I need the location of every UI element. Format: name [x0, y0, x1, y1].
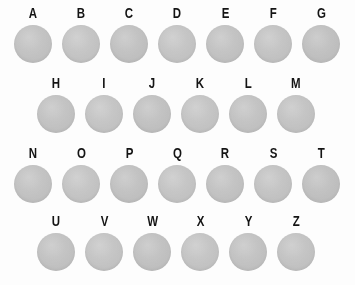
spot-cell[interactable]: I	[85, 76, 123, 133]
spot-row: N O P Q R S T	[0, 146, 355, 210]
spot-label: G	[317, 6, 326, 22]
spot-disc[interactable]	[85, 95, 123, 133]
spot-disc[interactable]	[302, 165, 340, 203]
spot-cell[interactable]: X	[181, 214, 219, 271]
spot-label: R	[221, 146, 229, 162]
spot-cell[interactable]: N	[14, 146, 52, 203]
spot-label: U	[52, 214, 60, 230]
spot-cell[interactable]: A	[14, 6, 52, 63]
spot-disc[interactable]	[37, 233, 75, 271]
spot-disc[interactable]	[14, 165, 52, 203]
spot-label: B	[77, 6, 85, 22]
spot-cell[interactable]: T	[302, 146, 340, 203]
spot-track: N O P Q R S T	[0, 146, 355, 203]
spot-row: H I J K L M	[0, 76, 355, 140]
spot-cell[interactable]: Z	[277, 214, 315, 271]
spot-cell[interactable]: C	[110, 6, 148, 63]
spot-cell[interactable]: G	[302, 6, 340, 63]
spot-label: E	[221, 6, 228, 22]
spot-label: A	[29, 6, 37, 22]
spot-label: C	[125, 6, 133, 22]
spot-disc[interactable]	[62, 165, 100, 203]
spot-row: A B C D E F G	[0, 6, 355, 70]
spot-cell[interactable]: Y	[229, 214, 267, 271]
spot-disc[interactable]	[158, 165, 196, 203]
spot-label: L	[245, 76, 252, 92]
spot-cell[interactable]: R	[206, 146, 244, 203]
spot-disc[interactable]	[181, 95, 219, 133]
spot-label: K	[196, 76, 204, 92]
spot-cell[interactable]: J	[133, 76, 171, 133]
spot-label: N	[29, 146, 37, 162]
spot-disc[interactable]	[254, 25, 292, 63]
spot-cell[interactable]: S	[254, 146, 292, 203]
spot-cell[interactable]: K	[181, 76, 219, 133]
spot-disc[interactable]	[14, 25, 52, 63]
spot-cell[interactable]: F	[254, 6, 292, 63]
spot-cell[interactable]: U	[37, 214, 75, 271]
spot-track: A B C D E F G	[0, 6, 355, 63]
spot-disc[interactable]	[37, 95, 75, 133]
spot-cell[interactable]: V	[85, 214, 123, 271]
spot-track: U V W X Y Z	[0, 214, 355, 271]
spot-label: F	[270, 6, 277, 22]
spot-cell[interactable]: B	[62, 6, 100, 63]
spot-label: W	[147, 214, 157, 230]
spot-row: U V W X Y Z	[0, 214, 355, 278]
spot-cell[interactable]: E	[206, 6, 244, 63]
spot-cell[interactable]: Q	[158, 146, 196, 203]
spot-disc[interactable]	[302, 25, 340, 63]
spot-label: Z	[293, 214, 300, 230]
spot-label: M	[291, 76, 300, 92]
spot-label: D	[173, 6, 181, 22]
spot-label: P	[125, 146, 132, 162]
spot-disc[interactable]	[277, 95, 315, 133]
spot-disc[interactable]	[229, 95, 267, 133]
spot-cell[interactable]: D	[158, 6, 196, 63]
spot-cell[interactable]: H	[37, 76, 75, 133]
spot-label: X	[196, 214, 203, 230]
spot-cell[interactable]: O	[62, 146, 100, 203]
spot-cell[interactable]: P	[110, 146, 148, 203]
spot-disc[interactable]	[62, 25, 100, 63]
spot-label: I	[103, 76, 106, 92]
spot-disc[interactable]	[110, 165, 148, 203]
spot-disc[interactable]	[133, 95, 171, 133]
spot-disc[interactable]	[110, 25, 148, 63]
spot-disc[interactable]	[181, 233, 219, 271]
spot-disc[interactable]	[229, 233, 267, 271]
spot-disc[interactable]	[277, 233, 315, 271]
spot-label: Q	[173, 146, 182, 162]
spot-cell[interactable]: L	[229, 76, 267, 133]
spot-disc[interactable]	[206, 165, 244, 203]
spot-disc[interactable]	[158, 25, 196, 63]
spot-label: S	[269, 146, 276, 162]
spot-label: O	[77, 146, 86, 162]
spot-plate: A B C D E F G	[0, 0, 355, 285]
spot-label: T	[318, 146, 325, 162]
spot-label: H	[52, 76, 60, 92]
spot-cell[interactable]: W	[133, 214, 171, 271]
spot-disc[interactable]	[254, 165, 292, 203]
spot-label: Y	[244, 214, 251, 230]
spot-cell[interactable]: M	[277, 76, 315, 133]
spot-track: H I J K L M	[0, 76, 355, 133]
spot-label: J	[149, 76, 155, 92]
spot-disc[interactable]	[133, 233, 171, 271]
spot-disc[interactable]	[85, 233, 123, 271]
spot-label: V	[100, 214, 107, 230]
spot-disc[interactable]	[206, 25, 244, 63]
